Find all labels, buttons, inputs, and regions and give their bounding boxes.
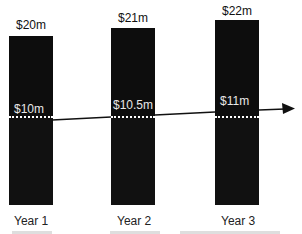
cropped-caption-fragment xyxy=(110,231,160,234)
cropped-caption-fragment xyxy=(12,231,52,234)
cropped-caption-fragment xyxy=(180,231,280,234)
trend-arrow-icon xyxy=(0,0,302,234)
